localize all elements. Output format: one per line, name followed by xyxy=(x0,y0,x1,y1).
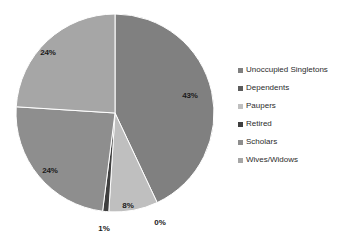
pie-chart-plot-area: 43% 0% 8% 1% 24% 24% xyxy=(0,0,230,242)
pie-chart-screenshot: 43% 0% 8% 1% 24% 24% Unoccupied Singleto… xyxy=(0,0,350,242)
chart-legend: Unoccupied SingletonsDependentsPaupersRe… xyxy=(238,61,350,169)
legend-item-label: Dependents xyxy=(246,84,289,92)
legend-swatch-icon xyxy=(238,158,243,163)
slice-label-paupers: 8% xyxy=(122,201,133,210)
legend-item-label: Paupers xyxy=(246,102,276,110)
slice-label-scholars: 24% xyxy=(42,166,58,175)
legend-item-label: Scholars xyxy=(246,138,277,146)
pie-chart-svg xyxy=(0,0,230,242)
pie-slice[interactable] xyxy=(16,14,115,113)
legend-item-label: Unoccupied Singletons xyxy=(246,66,328,74)
legend-item[interactable]: Retired xyxy=(238,115,350,133)
pie-slice-group xyxy=(16,14,214,212)
slice-label-retired: 1% xyxy=(98,224,109,233)
slice-label-dependents: 0% xyxy=(154,218,165,227)
legend-item[interactable]: Dependents xyxy=(238,79,350,97)
slice-label-unoccupied-singletons: 43% xyxy=(182,91,198,100)
legend-item-label: Wives/Widows xyxy=(246,156,298,164)
legend-swatch-icon xyxy=(238,122,243,127)
legend-item[interactable]: Unoccupied Singletons xyxy=(238,61,350,79)
legend-item[interactable]: Paupers xyxy=(238,97,350,115)
legend-item-label: Retired xyxy=(246,120,272,128)
legend-item[interactable]: Scholars xyxy=(238,133,350,151)
legend-swatch-icon xyxy=(238,68,243,73)
legend-swatch-icon xyxy=(238,86,243,91)
legend-item[interactable]: Wives/Widows xyxy=(238,151,350,169)
legend-swatch-icon xyxy=(238,140,243,145)
legend-swatch-icon xyxy=(238,104,243,109)
pie-slice[interactable] xyxy=(16,107,115,211)
slice-label-wives-widows: 24% xyxy=(40,48,56,57)
